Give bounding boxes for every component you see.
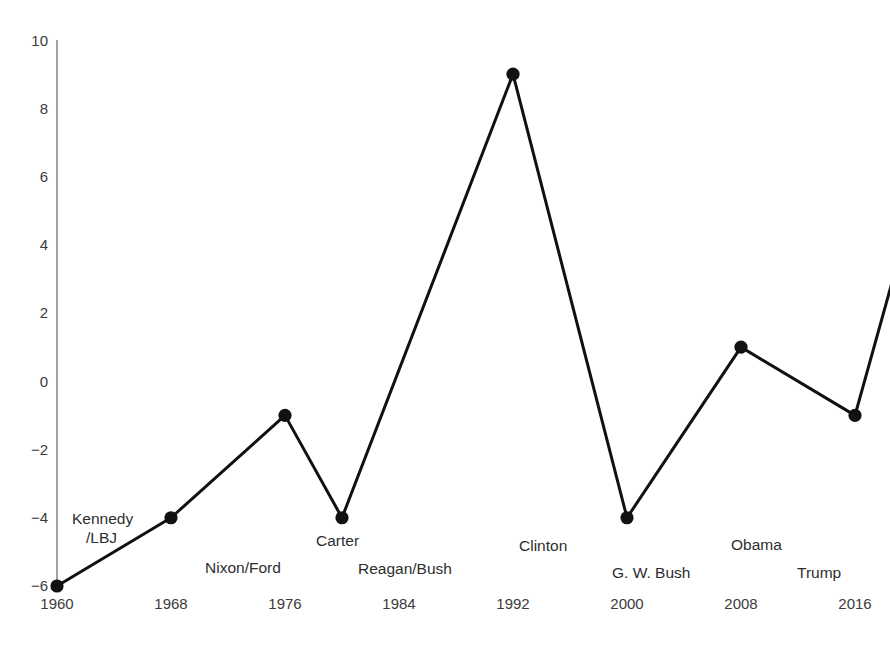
y-tick-label-neg6: −6	[8, 578, 48, 593]
data-point-marker	[848, 409, 861, 422]
annotation-carter: Carter	[316, 531, 359, 550]
y-tick-label-6: 6	[8, 169, 48, 184]
annotation-gw-bush: G. W. Bush	[612, 563, 690, 582]
x-tick-label-1992: 1992	[478, 596, 548, 612]
x-tick-label-1968: 1968	[136, 596, 206, 612]
y-tick-label-neg2: −2	[8, 442, 48, 457]
series-line-1	[57, 74, 890, 586]
x-tick-label-1976: 1976	[250, 596, 320, 612]
annotation-kennedy-lbj-line1: Kennedy	[72, 509, 133, 528]
y-tick-label-2: 2	[8, 305, 48, 320]
data-point-marker	[620, 511, 633, 524]
data-point-marker	[734, 341, 747, 354]
data-point-marker	[164, 511, 177, 524]
annotation-nixon-ford: Nixon/Ford	[205, 558, 281, 577]
y-tick-label-neg4: −4	[8, 510, 48, 525]
x-tick-label-2008: 2008	[706, 596, 776, 612]
x-tick-label-1960: 1960	[22, 596, 92, 612]
annotation-obama: Obama	[731, 535, 782, 554]
annotation-reagan-bush: Reagan/Bush	[358, 559, 452, 578]
annotation-trump: Trump	[797, 563, 841, 582]
y-tick-label-0: 0	[8, 374, 48, 389]
data-point-marker	[506, 68, 519, 81]
data-point-marker	[335, 511, 348, 524]
x-tick-label-2000: 2000	[592, 596, 662, 612]
x-tick-label-2016: 2016	[820, 596, 890, 612]
x-tick-label-1984: 1984	[364, 596, 434, 612]
y-tick-label-8: 8	[8, 101, 48, 116]
y-tick-label-4: 4	[8, 237, 48, 252]
data-series-group	[50, 68, 890, 593]
annotation-clinton: Clinton	[519, 536, 567, 555]
data-point-marker	[50, 579, 63, 592]
y-tick-label-10: 10	[8, 33, 48, 48]
annotation-kennedy-lbj-line2: /LBJ	[86, 528, 117, 547]
data-point-marker	[278, 409, 291, 422]
